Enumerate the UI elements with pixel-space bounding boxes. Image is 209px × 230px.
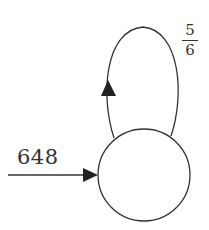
self-loop-edge	[107, 27, 178, 138]
incoming-edge-label: 648	[17, 145, 59, 169]
fraction-numerator: 5	[181, 22, 199, 39]
state-node	[98, 129, 190, 221]
self-loop-arrowhead-icon	[101, 80, 116, 96]
fraction-denominator: 6	[181, 42, 199, 59]
diagram-canvas	[0, 0, 209, 230]
incoming-arrowhead-icon	[83, 168, 98, 182]
self-loop-probability: 5 6	[181, 22, 199, 59]
